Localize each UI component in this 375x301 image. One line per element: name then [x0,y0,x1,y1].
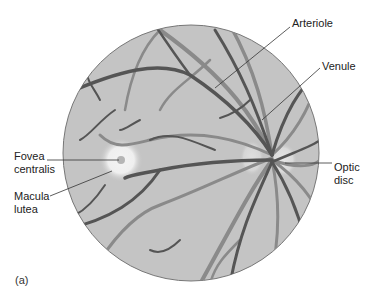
optic-disc-label: Optic disc [334,161,360,187]
retina-diagram [0,0,375,301]
macula-lutea-label: Macula lutea [14,190,49,216]
venule-label: Venule [322,60,356,73]
fovea-centralis-label: Fovea centralis [14,150,55,176]
panel-label: (a) [15,274,28,287]
arteriole-label: Arteriole [292,17,333,30]
